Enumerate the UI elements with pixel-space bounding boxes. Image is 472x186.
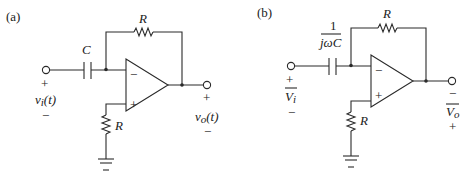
circuit-figure: (a) C R − + R	[0, 0, 472, 186]
opamp-plus-b: +	[375, 88, 382, 103]
ground-resistor-label-a: R	[114, 118, 123, 133]
panel-b-label: (b)	[257, 5, 272, 20]
output-terminal-a	[203, 81, 210, 88]
feedback-wire-right-a	[153, 32, 182, 85]
ground-symbol-b	[343, 156, 359, 167]
output-plus-sign-a: +	[203, 90, 210, 105]
feedback-wire-left-b	[351, 28, 378, 66]
output-node-a	[180, 83, 184, 87]
svg-text:Vi: Vi	[285, 89, 296, 105]
output-voltage-label-a: vo(t)	[195, 109, 219, 125]
opamp-plus-a: +	[130, 97, 137, 112]
svg-text:1: 1	[330, 18, 337, 33]
input-minus-sign-a: −	[42, 108, 49, 123]
input-phasor-label-b: Vi	[285, 88, 297, 105]
feedback-resistor-label-a: R	[138, 11, 147, 26]
ground-symbol-a	[98, 159, 114, 170]
output-plus-sign-b: +	[449, 119, 456, 134]
input-terminal-a	[42, 66, 49, 73]
svg-text:vi(t): vi(t)	[35, 92, 56, 108]
input-plus-sign-b: +	[286, 72, 293, 87]
ground-resistor-a	[102, 115, 110, 134]
feedback-resistor-a	[134, 28, 153, 36]
capacitor-b	[329, 58, 336, 75]
output-terminal-b	[448, 77, 455, 84]
output-minus-sign-a: −	[204, 124, 211, 139]
svg-text:Vo: Vo	[446, 104, 460, 120]
feedback-wire-right-b	[397, 28, 426, 81]
capacitor-label-a: C	[82, 42, 91, 57]
output-minus-sign-b: −	[449, 86, 456, 101]
panel-a-label: (a)	[6, 9, 20, 24]
circuit-a: (a) C R − + R	[6, 9, 219, 170]
noninverting-wire-a	[106, 104, 126, 115]
capacitor-c-a	[84, 62, 91, 79]
circuit-b: (b) 1 jωC R − + R	[257, 5, 460, 167]
noninverting-wire-b	[351, 101, 371, 112]
opamp-minus-b: −	[375, 63, 382, 78]
feedback-wire-left-a	[106, 32, 134, 70]
impedance-label-b: 1 jωC	[318, 18, 342, 50]
ground-resistor-label-b: R	[359, 113, 368, 128]
output-phasor-label-b: Vo	[446, 104, 460, 120]
feedback-resistor-label-b: R	[382, 6, 391, 21]
feedback-resistor-b	[378, 24, 397, 32]
svg-text:vo(t): vo(t)	[195, 109, 219, 125]
ground-resistor-b	[347, 112, 355, 131]
svg-text:jωC: jωC	[318, 35, 342, 50]
opamp-minus-a: −	[130, 67, 137, 82]
input-voltage-label-a: vi(t)	[35, 92, 56, 108]
input-terminal-b	[287, 62, 294, 69]
input-plus-sign-a: +	[41, 76, 48, 91]
output-node-b	[424, 79, 428, 83]
input-minus-sign-b: −	[288, 105, 295, 120]
